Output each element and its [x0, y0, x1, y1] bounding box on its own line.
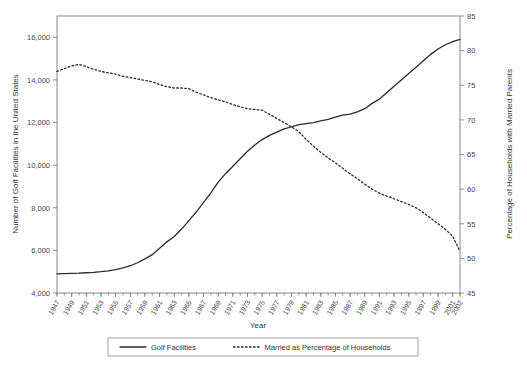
x-tick-label: 1959 [135, 299, 149, 316]
x-tick-label: 1975 [252, 299, 266, 316]
plot-frame-group [57, 16, 460, 293]
chart-figure: 4,0006,0008,00010,00012,00014,00016,000 … [0, 0, 527, 366]
y2-tick-label: 55 [467, 220, 475, 229]
x-tick-label: 1987 [340, 299, 354, 316]
x-tick-label: 1991 [369, 299, 383, 316]
x-tick-label: 1955 [106, 299, 120, 316]
y2-tick-label: 60 [467, 185, 475, 194]
x-tick-label: 1989 [355, 299, 369, 316]
y-tick-label: 12,000 [27, 118, 50, 127]
legend-label: Married as Percentage of Households [265, 343, 391, 352]
x-tick-label: 1969 [208, 299, 222, 316]
y-axis-title: Number of Golf Facilities in the United … [11, 74, 20, 234]
y2-tick-label: 50 [467, 254, 475, 263]
y2-tick-label: 85 [467, 12, 475, 21]
chart-legend: Golf FacilitiesMarried as Percentage of … [108, 338, 418, 356]
x-tick-label: 1971 [223, 299, 237, 316]
plot-frame [57, 16, 460, 293]
y2-axis-ticks: 455055606570758085 [460, 12, 475, 298]
x-tick-label: 1985 [325, 299, 339, 316]
x-tick-label: 1993 [384, 299, 398, 316]
y2-tick-label: 65 [467, 150, 475, 159]
x-tick-label: 1995 [399, 299, 413, 316]
y2-tick-label: 80 [467, 46, 475, 55]
y-axis-ticks: 4,0006,0008,00010,00012,00014,00016,000 [27, 33, 57, 298]
y-tick-label: 16,000 [27, 33, 50, 42]
series-line-dotted [57, 64, 460, 251]
x-tick-label: 1947 [47, 299, 61, 316]
chart-svg: 4,0006,0008,00010,00012,00014,00016,000 … [0, 0, 527, 366]
x-tick-label: 1965 [179, 299, 193, 316]
y-tick-label: 10,000 [27, 161, 50, 170]
y2-tick-label: 75 [467, 81, 475, 90]
x-axis-title: Year [250, 321, 267, 330]
y-tick-label: 6,000 [31, 246, 50, 255]
x-tick-label: 1961 [150, 299, 164, 316]
y2-tick-label: 45 [467, 289, 475, 298]
x-tick-label: 1967 [194, 299, 208, 316]
x-tick-label: 1953 [91, 299, 105, 316]
axis-titles-group: Number of Golf Facilities in the United … [11, 69, 514, 330]
series-group [57, 39, 460, 273]
x-tick-label: 1981 [296, 299, 310, 316]
legend-label: Golf Facilities [151, 343, 196, 352]
x-tick-label: 1979 [281, 299, 295, 316]
y-tick-label: 4,000 [31, 289, 50, 298]
y2-axis-title: Percentage of Households with Married Pa… [505, 69, 514, 239]
x-axis-ticks: 1947194919511953195519571959196119631965… [47, 293, 464, 316]
x-tick-label: 1997 [413, 299, 427, 316]
x-tick-label: 1973 [238, 299, 252, 316]
series-line-solid [57, 39, 460, 273]
x-tick-label: 1977 [267, 299, 281, 316]
y2-tick-label: 70 [467, 116, 475, 125]
y-tick-label: 14,000 [27, 76, 50, 85]
x-tick-label: 1999 [428, 299, 442, 316]
x-tick-label: 1983 [311, 299, 325, 316]
x-tick-label: 1949 [62, 299, 76, 316]
x-tick-label: 1963 [164, 299, 178, 316]
x-tick-label: 1951 [76, 299, 90, 316]
x-tick-label: 1957 [120, 299, 134, 316]
y-tick-label: 8,000 [31, 204, 50, 213]
